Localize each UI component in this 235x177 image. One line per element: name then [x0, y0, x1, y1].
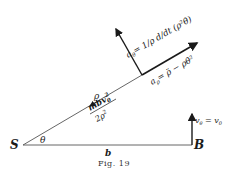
point-b-label: B: [193, 138, 204, 152]
v-theta-label: vθ = v0: [195, 116, 223, 126]
a-theta-label: aθ= 1/ρ d/dt (ρ²θ̇): [124, 14, 194, 61]
theta-label: θ: [40, 135, 46, 145]
force-expression: mbv02 2ρ2: [86, 91, 117, 124]
a-rho-label: aρ= ρ̈ − ρθ̇²: [148, 53, 197, 88]
point-s-label: S: [10, 138, 19, 152]
svg-text:2ρ2: 2ρ2: [92, 108, 110, 124]
figure-caption: Fig. 19: [98, 159, 130, 168]
b-label: b: [105, 148, 111, 158]
orbit-diagram: S B θ b Fig. 19 ρ mbv02 2ρ2 aθ= 1/ρ d/dt…: [0, 0, 235, 177]
